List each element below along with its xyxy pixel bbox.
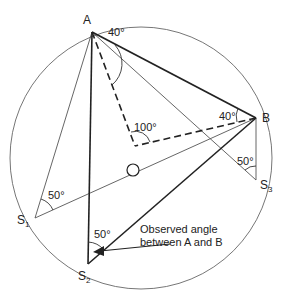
label-S3-sub: 3 — [268, 185, 272, 194]
annotation-line-2: between A and B — [140, 236, 223, 249]
label-S1: S1 — [17, 214, 29, 226]
label-S2-main: S — [78, 269, 86, 283]
annotation-text: Observed angle between A and B — [140, 223, 223, 249]
annotation-line-1: Observed angle — [140, 223, 223, 236]
angle-label-B: 40° — [219, 111, 236, 122]
angle-label-S3: 50° — [237, 156, 254, 167]
label-S1-main: S — [17, 213, 25, 227]
geometry-svg — [0, 0, 286, 294]
label-S1-sub: 1 — [25, 220, 29, 229]
chord-A-B — [92, 32, 256, 118]
angle-label-S2: 50° — [94, 229, 111, 240]
angle-arc-B — [236, 108, 238, 122]
angle-label-O: 100° — [134, 122, 157, 133]
diagram-canvas: A B S1 S2 S3 40° 40° 100° 50° 50° 50° Ob… — [0, 0, 286, 294]
centre-marker-O — [127, 164, 139, 176]
label-A: A — [83, 14, 91, 26]
label-S3: S3 — [260, 179, 272, 191]
radius-A-O — [92, 32, 135, 146]
angle-label-A: 40° — [108, 27, 125, 38]
label-S2: S2 — [78, 270, 90, 282]
label-S3-main: S — [260, 178, 268, 192]
angle-label-S1: 50° — [48, 190, 65, 201]
circumcircle — [10, 27, 272, 289]
line-B-S1 — [35, 118, 256, 218]
label-S2-sub: 2 — [86, 276, 90, 285]
label-B: B — [262, 112, 270, 124]
line-A-S2 — [88, 32, 92, 264]
